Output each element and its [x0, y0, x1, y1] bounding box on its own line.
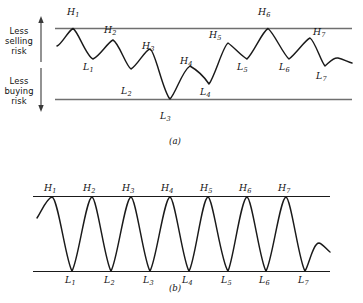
panel-b-caption: (b)	[145, 283, 205, 293]
panel-a-high-label-3: H3	[142, 40, 154, 51]
panel-a-caption: (a)	[145, 136, 205, 146]
buying-risk-line-3: risk	[0, 96, 41, 106]
panel-b-high-label-6: H6	[239, 182, 251, 193]
buying-risk-line-1: Less	[0, 76, 41, 86]
panel-b-high-label-7: H7	[278, 182, 290, 193]
figure-container: Less selling risk Less buying risk H1 H2…	[0, 0, 363, 303]
panel-a-high-label-7: H7	[313, 26, 325, 37]
panel-b-high-label-1: H1	[44, 182, 56, 193]
panel-a-high-label-4: H4	[180, 55, 192, 66]
panel-a-high-label-5: H5	[209, 29, 221, 40]
panel-b-high-label-5: H5	[200, 182, 212, 193]
panel-a-high-label-1: H1	[67, 6, 79, 17]
selling-risk-line-3: risk	[0, 46, 41, 56]
panel-b-low-label-5: L5	[221, 274, 231, 285]
panel-a-low-label-5: L5	[237, 61, 247, 72]
panel-a-low-label-2: L2	[121, 85, 131, 96]
selling-risk-arrow-head-up	[38, 16, 43, 23]
panel-a-low-label-1: L1	[83, 61, 93, 72]
panel-a-low-label-3: L3	[160, 110, 170, 121]
panel-a-low-label-6: L6	[279, 61, 289, 72]
less-selling-risk-label: Less selling risk	[0, 26, 41, 57]
panel-a-high-label-2: H2	[104, 24, 116, 35]
selling-risk-line-1: Less	[0, 26, 41, 36]
panel-b-group	[33, 197, 330, 272]
panel-b-high-label-2: H2	[83, 182, 95, 193]
panel-b-low-label-6: L6	[259, 274, 269, 285]
less-buying-risk-label: Less buying risk	[0, 76, 41, 107]
panel-a-low-label-7: L7	[316, 70, 326, 81]
panel-b-low-label-7: L7	[298, 274, 308, 285]
panel-b-price-curve	[37, 197, 330, 271]
buying-risk-line-2: buying	[0, 86, 41, 96]
panel-b-high-label-3: H3	[122, 182, 134, 193]
panel-b-high-label-4: H4	[161, 182, 173, 193]
figure-graphics	[0, 0, 363, 303]
panel-a-high-label-6: H6	[258, 6, 270, 17]
panel-b-low-label-2: L2	[104, 274, 114, 285]
panel-b-low-label-1: L1	[65, 274, 75, 285]
panel-a-low-label-4: L4	[200, 86, 210, 97]
selling-risk-line-2: selling	[0, 36, 41, 46]
